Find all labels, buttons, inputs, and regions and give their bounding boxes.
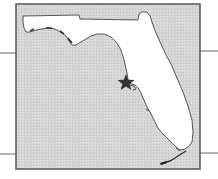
- florida-locator-map: [0, 0, 218, 179]
